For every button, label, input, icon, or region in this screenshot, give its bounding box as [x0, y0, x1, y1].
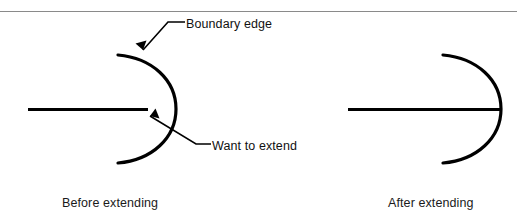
annotation-label-boundary-edge: Boundary edge — [186, 17, 272, 31]
leader-want-to-extend — [150, 109, 211, 145]
panel-before-extending — [28, 55, 176, 163]
leader-line — [143, 22, 185, 50]
diagram-page: Boundary edge Want to extend Before exte… — [0, 0, 517, 216]
extend-illustration — [0, 0, 517, 216]
leader-line — [150, 116, 211, 144]
caption-after-extending: After extending — [388, 196, 474, 210]
leader-boundary-edge — [136, 22, 186, 50]
annotation-label-want-to-extend: Want to extend — [212, 139, 297, 153]
panel-after-extending — [348, 55, 501, 163]
caption-before-extending: Before extending — [62, 196, 158, 210]
